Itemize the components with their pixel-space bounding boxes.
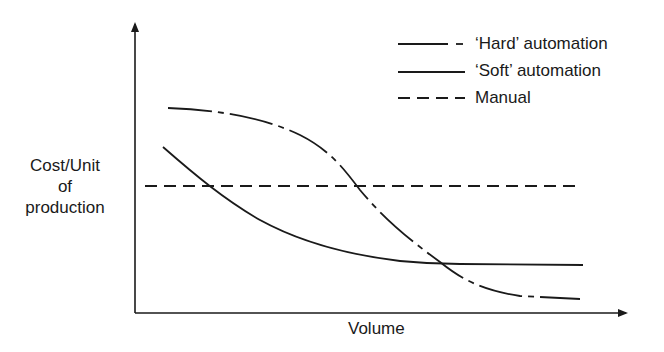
series-hard-automation: [168, 108, 580, 299]
legend-label-hard: ‘Hard’ automation: [475, 33, 608, 54]
legend-label-manual: Manual: [475, 87, 531, 108]
y-axis-label: Cost/Unit of production: [0, 155, 130, 218]
legend-label-soft: ‘Soft’ automation: [475, 60, 601, 81]
y-axis-label-line1: Cost/Unit: [0, 155, 130, 176]
y-axis-label-line2: of: [0, 176, 130, 197]
x-axis-label: Volume: [348, 318, 405, 339]
y-axis-label-line3: production: [0, 197, 130, 218]
legend: [398, 44, 465, 98]
